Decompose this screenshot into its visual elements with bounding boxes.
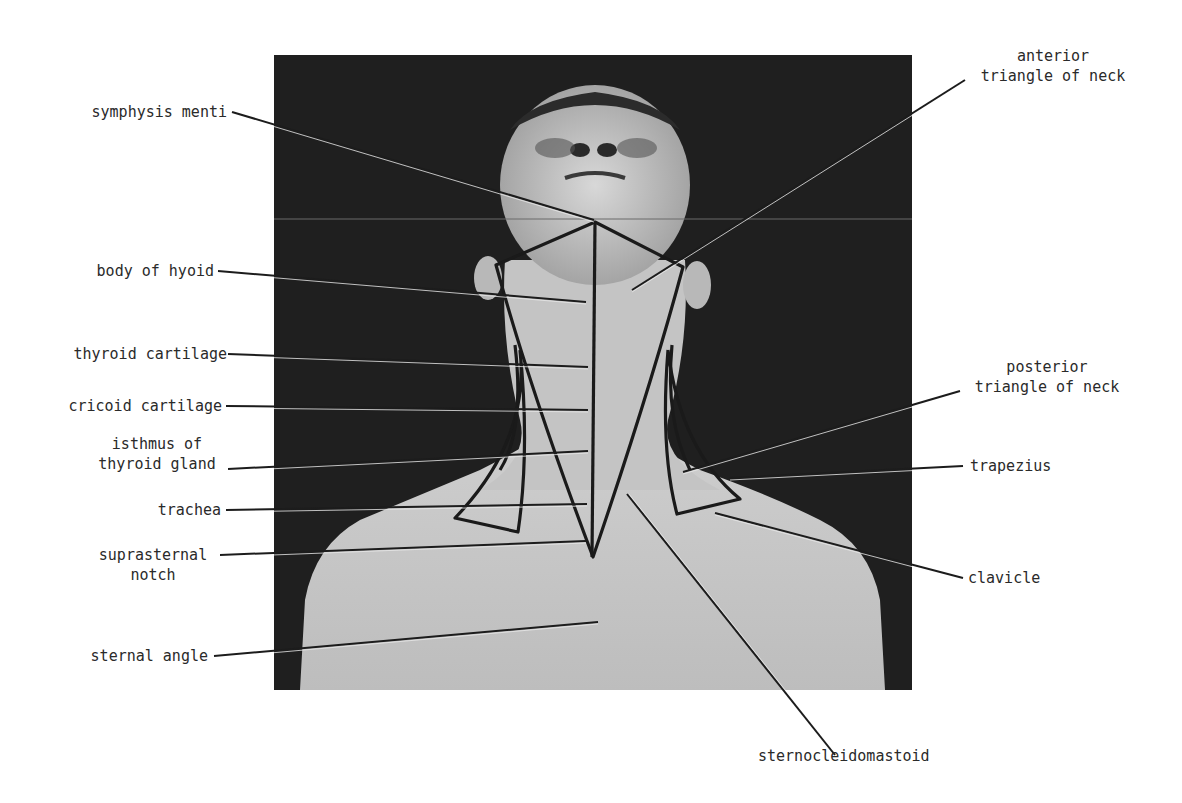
label-anterior-line1: anterior [968, 46, 1138, 66]
label-body-of-hyoid: body of hyoid [97, 261, 214, 281]
label-anterior-line2: triangle of neck [968, 66, 1138, 86]
label-isthmus-line2: thyroid gland [82, 454, 232, 474]
label-posterior-line2: triangle of neck [962, 377, 1132, 397]
label-sternocleidomastoid: sternocleidomastoid [758, 746, 930, 766]
label-posterior-triangle-of-neck: posterior triangle of neck [962, 357, 1132, 397]
label-isthmus-line1: isthmus of [82, 434, 232, 454]
label-suprasternal-line2: notch [88, 565, 218, 585]
label-sternal-angle: sternal angle [91, 646, 208, 666]
label-posterior-line1: posterior [962, 357, 1132, 377]
label-trapezius: trapezius [970, 456, 1051, 476]
label-trachea: trachea [158, 500, 221, 520]
label-cricoid-cartilage: cricoid cartilage [68, 396, 222, 416]
label-suprasternal-notch: suprasternal notch [88, 545, 218, 585]
label-thyroid-cartilage: thyroid cartilage [73, 344, 227, 364]
label-isthmus-of-thyroid-gland: isthmus of thyroid gland [82, 434, 232, 474]
label-clavicle: clavicle [968, 568, 1040, 588]
label-anterior-triangle-of-neck: anterior triangle of neck [968, 46, 1138, 86]
label-suprasternal-line1: suprasternal [88, 545, 218, 565]
label-symphysis-menti: symphysis menti [92, 102, 227, 122]
